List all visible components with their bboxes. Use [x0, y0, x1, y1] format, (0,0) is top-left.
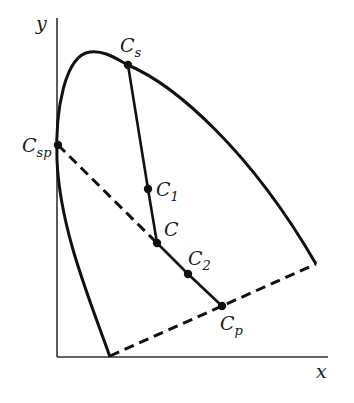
chromaticity-diagram: y x Cs Csp C1 C C2 Cp: [0, 0, 354, 403]
x-axis-label: x: [316, 360, 327, 382]
point-c2: [184, 270, 192, 278]
point-c1: [144, 185, 152, 193]
label-c: C: [164, 218, 179, 240]
point-c: [153, 239, 161, 247]
label-cs: Cs: [120, 34, 142, 60]
label-c1: C1: [156, 178, 179, 204]
y-axis-label: y: [35, 12, 47, 34]
label-csp: Csp: [22, 134, 52, 160]
spectral-locus: [57, 52, 316, 357]
label-c2: C2: [188, 247, 211, 273]
label-cp: Cp: [220, 312, 244, 338]
point-cs: [124, 61, 132, 69]
point-cp: [218, 302, 226, 310]
dominant-wavelength-line: [128, 65, 157, 243]
point-csp: [54, 141, 62, 149]
purple-line: [110, 264, 316, 356]
